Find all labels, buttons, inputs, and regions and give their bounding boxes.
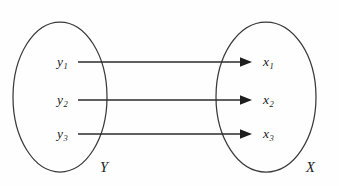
codomain-element-x3: x3 — [263, 127, 274, 141]
codomain-element-x1-base: x — [263, 54, 269, 69]
mapping-arrow-3-head — [240, 129, 252, 139]
domain-element-y1-base: y — [57, 54, 63, 69]
domain-element-y3-subscript: 3 — [64, 133, 68, 143]
codomain-element-x3-base: x — [263, 126, 269, 141]
mapping-arrow-3 — [78, 129, 252, 139]
domain-element-y3: y3 — [57, 127, 68, 141]
diagram-canvas — [0, 0, 339, 186]
domain-element-y2-subscript: 2 — [64, 99, 68, 109]
domain-element-y2-base: y — [57, 92, 63, 107]
codomain-element-x3-subscript: 3 — [270, 133, 274, 143]
set-label-x: X — [306, 160, 315, 175]
domain-element-y2: y2 — [57, 93, 68, 107]
mapping-arrow-2 — [78, 95, 252, 105]
set-label-y: Y — [100, 160, 108, 175]
codomain-element-x2: x2 — [263, 93, 274, 107]
domain-element-y1: y1 — [57, 55, 68, 69]
mapping-arrow-2-head — [240, 95, 252, 105]
mapping-arrow-1-head — [240, 57, 252, 67]
domain-element-y3-base: y — [57, 126, 63, 141]
codomain-element-x2-subscript: 2 — [270, 99, 274, 109]
codomain-element-x1-subscript: 1 — [270, 61, 274, 71]
domain-element-y1-subscript: 1 — [64, 61, 68, 71]
mapping-arrow-1 — [78, 57, 252, 67]
codomain-element-x1: x1 — [263, 55, 274, 69]
set-mapping-diagram: y1 y2 y3 x1 x2 x3 Y X — [0, 0, 339, 186]
codomain-element-x2-base: x — [263, 92, 269, 107]
